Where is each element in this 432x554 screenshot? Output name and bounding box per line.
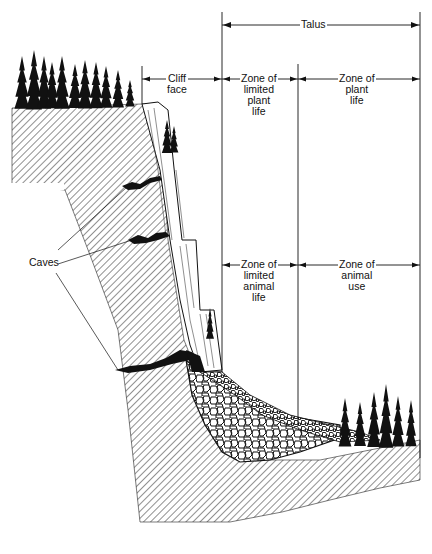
label-line: life	[241, 292, 277, 303]
bedrock-upper	[12, 104, 420, 522]
label-caves: Caves	[28, 257, 60, 268]
label-line: life	[339, 95, 375, 106]
label-zone-plant-life: Zone of plant life	[338, 73, 376, 106]
label-zone-animal-use: Zone of animal use	[338, 259, 376, 292]
label-cliff-face: Cliff face	[166, 73, 188, 95]
label-line: life	[241, 106, 277, 117]
label-talus: Talus	[300, 19, 327, 30]
label-cliff-face-line2: face	[167, 84, 187, 95]
label-zone-limited-animal-life: Zone of limited animal life	[240, 259, 278, 303]
label-line: use	[339, 281, 375, 292]
label-zone-limited-plant-life: Zone of limited plant life	[240, 73, 278, 117]
